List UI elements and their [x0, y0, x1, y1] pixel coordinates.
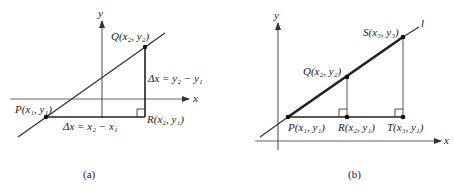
- label-p: P(x₁, y₁): [287, 121, 325, 134]
- point-p: [286, 115, 291, 120]
- caption-b: (b): [348, 168, 361, 181]
- caption-a: (a): [83, 168, 96, 181]
- panel-a: x y P(x₁, y₁) Q(x₂, y₂) R(x₂, y₁) Δx = x…: [10, 7, 203, 181]
- panel-b: x y l P(x₁, y₁) Q(x₂, y₂) R(x₂, y₁) S(x₃…: [255, 9, 449, 181]
- line-l-extension-low: [260, 117, 288, 137]
- point-q: [143, 45, 147, 49]
- label-delta-y: Δx = y₂ − y₁: [147, 72, 203, 84]
- point-s: [401, 35, 406, 40]
- line-l-extension-high: [403, 27, 419, 37]
- line-l-label: l: [421, 17, 424, 29]
- label-t: T(x₃, y₁): [387, 121, 424, 134]
- x-axis-label: x: [443, 134, 449, 146]
- label-s: S(x₃, y₃): [363, 26, 399, 39]
- right-angle-marker: [137, 109, 145, 117]
- label-r: R(x₂, y₁): [146, 113, 184, 126]
- label-q: Q(x₂, y₂): [111, 30, 150, 43]
- point-t: [401, 115, 406, 120]
- label-delta-x: Δx = x₂ − x₁: [62, 120, 118, 132]
- x-axis-label: x: [192, 92, 198, 104]
- point-q: [345, 75, 350, 80]
- point-p: [44, 115, 48, 119]
- y-axis-label: y: [97, 7, 103, 19]
- label-q: Q(x₂, y₂): [303, 65, 342, 78]
- label-r: R(x₂, y₁): [337, 121, 375, 134]
- label-p: P(x₁, y₁): [14, 103, 52, 116]
- point-r: [345, 115, 350, 120]
- y-axis-label: y: [273, 9, 279, 21]
- slope-diagram: x y P(x₁, y₁) Q(x₂, y₂) R(x₂, y₁) Δx = x…: [0, 0, 454, 192]
